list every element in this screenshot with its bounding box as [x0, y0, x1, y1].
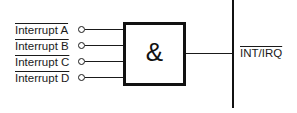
and-symbol: & [126, 37, 183, 67]
input-label-a: Interrupt A [15, 24, 68, 36]
inverter-bubble-icon [78, 26, 85, 33]
input-wire-d [85, 77, 123, 78]
input-label-b: Interrupt B [15, 40, 69, 52]
output-label: INT/IRQ [240, 47, 282, 59]
output-wire [186, 53, 232, 54]
input-wire-c [85, 61, 123, 62]
interrupt-bus-line [232, 0, 234, 108]
inverter-bubble-icon [78, 74, 85, 81]
and-gate: & [123, 22, 186, 86]
inverter-bubble-icon [78, 42, 85, 49]
input-label-c: Interrupt C [15, 56, 69, 68]
input-wire-a [85, 29, 123, 30]
inverter-bubble-icon [78, 58, 85, 65]
input-label-d: Interrupt D [15, 72, 69, 84]
input-wire-b [85, 45, 123, 46]
